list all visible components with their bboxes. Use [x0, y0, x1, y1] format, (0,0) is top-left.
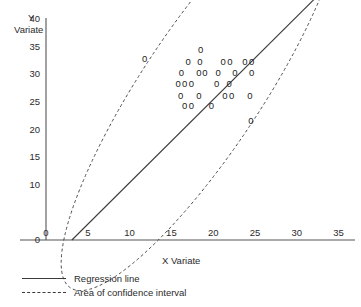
y-tick-label: 30 — [18, 69, 40, 79]
legend-label-regression-line: Regression line — [74, 272, 139, 285]
data-point-marker: 0 — [201, 68, 209, 78]
x-tick-label: 20 — [202, 228, 224, 238]
data-point-marker: 0 — [187, 101, 195, 111]
legend-solid-line-icon — [22, 278, 66, 279]
y-axis-title-line1: Y — [14, 12, 43, 24]
data-point-marker: 0 — [248, 68, 256, 78]
y-tick-label: 35 — [18, 42, 40, 52]
data-point-marker: 0 — [246, 91, 254, 101]
x-tick-label: 15 — [160, 228, 182, 238]
legend-item-confidence-interval: Area of confidence interval — [22, 286, 282, 300]
data-point-marker: 0 — [196, 57, 204, 67]
data-point-marker: 0 — [226, 57, 234, 67]
y-axis-title-line2: Variate — [14, 24, 43, 36]
x-tick-label: 5 — [77, 228, 99, 238]
y-tick-label: 10 — [18, 180, 40, 190]
data-point-marker: 0 — [141, 54, 149, 64]
data-point-marker: 0 — [247, 116, 255, 126]
y-tick-label: 15 — [18, 152, 40, 162]
data-point-marker: 0 — [208, 101, 216, 111]
data-point-marker: 0 — [197, 45, 205, 55]
plot-area: 0000000000000000000000000000 05101520253… — [0, 0, 361, 307]
y-tick-label: 25 — [18, 97, 40, 107]
data-point-marker: 0 — [214, 68, 222, 78]
x-tick-label: 35 — [328, 228, 350, 238]
regression-line — [72, 0, 325, 240]
y-tick-label: 20 — [18, 125, 40, 135]
x-tick-label: 30 — [286, 228, 308, 238]
legend-dashed-line-icon — [22, 292, 66, 293]
data-point-marker: 0 — [213, 79, 221, 89]
x-tick-label: 25 — [244, 228, 266, 238]
chart-legend: Regression line Area of confidence inter… — [22, 272, 282, 300]
x-tick-label: 10 — [119, 228, 141, 238]
legend-label-confidence-interval: Area of confidence interval — [74, 286, 186, 299]
data-point-marker: 0 — [225, 79, 233, 89]
x-axis-title: X Variate — [162, 255, 200, 267]
data-point-marker: 0 — [187, 79, 195, 89]
data-point-marker: 0 — [231, 68, 239, 78]
data-point-marker: 0 — [184, 57, 192, 67]
scatter-plot-figure: 0000000000000000000000000000 05101520253… — [0, 0, 361, 307]
legend-item-regression-line: Regression line — [22, 272, 282, 286]
data-point-marker: 0 — [195, 91, 203, 101]
y-axis-title: Y Variate — [14, 12, 43, 36]
data-point-marker: 0 — [228, 91, 236, 101]
data-point-marker: 0 — [177, 68, 185, 78]
data-point-marker: 0 — [248, 57, 256, 67]
y-tick-label: 0 — [18, 235, 40, 245]
